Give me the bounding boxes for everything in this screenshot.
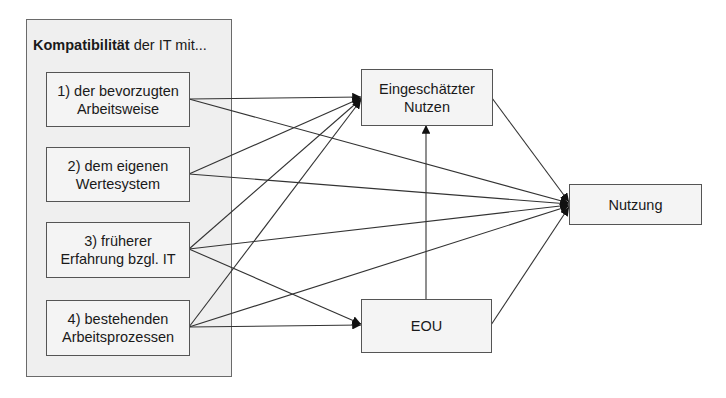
edge-3-nutzung [189,205,569,249]
edge-4-eou [189,325,361,327]
edge-4-nutzen [189,100,361,327]
edge-nutzen-nutzung [492,98,569,202]
edge-3-nutzen [189,99,361,249]
item-2-box: 2) dem eigenen Wertesystem [46,147,190,202]
nutzung-label: Nutzung [608,196,662,214]
edge-1-nutzen [189,97,361,99]
nutzung-box: Nutzung [569,184,702,225]
item-3-label: 3) früherer Erfahrung bzgl. IT [60,232,175,268]
item-3-box: 3) früherer Erfahrung bzgl. IT [46,222,190,278]
item-1-box: 1) der bevorzugten Arbeitsweise [46,72,190,127]
eou-label: EOU [411,317,442,335]
item-2-label: 2) dem eigenen Wertesystem [68,157,169,193]
edge-2-nutzen [189,98,361,174]
item-1-label: 1) der bevorzugten Arbeitsweise [57,82,179,118]
item-4-label: 4) bestehenden Arbeitsprozessen [62,310,174,346]
edge-3-eou [189,249,361,324]
item-4-box: 4) bestehenden Arbeitsprozessen [46,300,190,356]
nutzen-label: Eingeschätzter Nutzen [379,80,475,116]
edge-eou-nutzung [491,207,569,325]
nutzen-box: Eingeschätzter Nutzen [361,69,493,126]
eou-box: EOU [361,299,492,353]
